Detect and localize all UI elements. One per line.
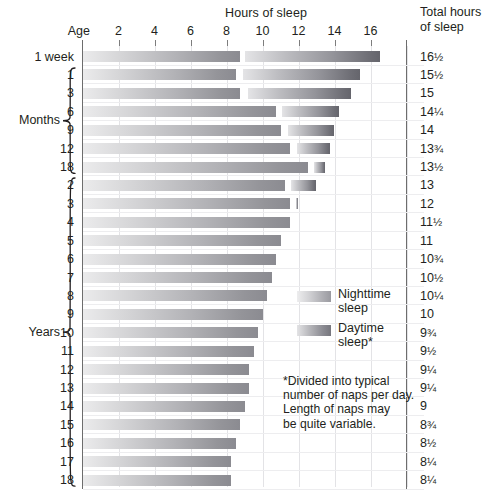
bar-nighttime (83, 106, 277, 117)
legend-label-daytime: Daytime sleep* (338, 321, 384, 349)
legend-label-nighttime-line1: Nighttime (338, 287, 391, 301)
row-total-whole: 13 (420, 142, 434, 156)
x-tick-label-6: 6 (178, 24, 204, 38)
row-total-whole: 10 (420, 307, 434, 321)
row-total-fraction: ¼ (427, 456, 436, 468)
footnote-line3: Length of naps may (283, 402, 433, 416)
row-total-whole: 9 (420, 326, 427, 340)
sleep-requirements-chart: Hours of sleep Age Total hours of sleep … (0, 0, 487, 499)
bar-daytime (297, 143, 330, 154)
bar-nighttime (83, 69, 236, 80)
row-total-fraction: ½ (434, 161, 443, 173)
row-total-whole: 8 (420, 436, 427, 450)
x-tick-label-10: 10 (250, 24, 276, 38)
years-group-brace (62, 177, 78, 487)
bar-nighttime (83, 180, 286, 191)
row-total-fraction: ½ (427, 437, 436, 449)
row-total-hours: 15 (420, 84, 482, 102)
row-total-hours: 12 (420, 195, 482, 213)
bar-daytime (291, 180, 316, 191)
x-tick-label-16: 16 (358, 24, 384, 38)
months-group-label: Months (0, 113, 60, 127)
legend-swatch-daytime (297, 325, 331, 336)
chart-title: Hours of sleep (186, 6, 346, 20)
months-group-brace (62, 67, 78, 175)
legend-swatch-nighttime (297, 291, 331, 302)
legend-label-daytime-line1: Daytime (338, 321, 384, 335)
row-total-fraction: ½ (427, 345, 436, 357)
row-total-hours: 10¼ (420, 287, 482, 305)
bar-nighttime (83, 125, 281, 136)
row-total-fraction: ¼ (434, 290, 443, 302)
bar-nighttime (83, 272, 272, 283)
row-separator (83, 489, 424, 490)
footnote-line2: number of naps per day. (283, 388, 433, 402)
row-total-whole: 10 (420, 252, 434, 266)
bar-nighttime (83, 254, 277, 265)
row-total-whole: 13 (420, 178, 434, 192)
row-total-hours: 16½ (420, 48, 482, 66)
x-tick-label-12: 12 (286, 24, 312, 38)
row-total-hours: 13½ (420, 158, 482, 176)
row-total-fraction: ½ (434, 69, 443, 81)
legend-label-nighttime-line2: sleep (338, 301, 391, 315)
bar-nighttime (83, 475, 232, 486)
row-age-label: 1 week (0, 48, 74, 66)
row-total-fraction: ½ (434, 51, 443, 63)
bar-daytime (243, 69, 360, 80)
footnote: *Divided into typical number of naps per… (283, 374, 433, 431)
bar-nighttime (83, 438, 236, 449)
bar-nighttime (83, 88, 241, 99)
years-group-label: Years (0, 325, 60, 339)
legend-label-nighttime: Nighttime sleep (338, 287, 391, 315)
row-total-hours: 15½ (420, 66, 482, 84)
row-total-hours: 10 (420, 305, 482, 323)
row-total-whole: 15 (420, 68, 434, 82)
bar-nighttime (83, 364, 250, 375)
total-hours-header: Total hours of sleep (420, 5, 486, 35)
footnote-line1: *Divided into typical (283, 374, 433, 388)
row-total-whole: 14 (420, 105, 434, 119)
row-total-whole: 11 (420, 215, 433, 229)
row-total-fraction: ¼ (427, 474, 436, 486)
row-total-whole: 12 (420, 197, 434, 211)
bar-nighttime (83, 327, 259, 338)
bar-nighttime (83, 198, 290, 209)
row-total-hours: 9¾ (420, 324, 482, 342)
bar-daytime (248, 88, 351, 99)
row-total-fraction: ¾ (427, 327, 436, 339)
row-total-hours: 14 (420, 121, 482, 139)
row-total-whole: 10 (420, 271, 434, 285)
bar-nighttime (83, 401, 245, 412)
x-tick-label-4: 4 (142, 24, 168, 38)
row-total-whole: 9 (420, 344, 427, 358)
bar-nighttime (83, 456, 232, 467)
row-total-whole: 8 (420, 455, 427, 469)
bar-nighttime (83, 162, 308, 173)
bar-nighttime (83, 383, 250, 394)
x-tick-label-8: 8 (214, 24, 240, 38)
x-tick-label-14: 14 (322, 24, 348, 38)
bar-nighttime (83, 235, 281, 246)
bar-nighttime (83, 143, 290, 154)
row-total-hours: 8¼ (420, 471, 482, 489)
row-total-whole: 15 (420, 86, 434, 100)
legend-label-daytime-line2: sleep* (338, 335, 384, 349)
row-total-hours: 10½ (420, 269, 482, 287)
row-total-hours: 13¾ (420, 140, 482, 158)
chart-row: 1 week16½ (0, 48, 487, 66)
row-total-fraction: ½ (433, 216, 442, 228)
row-total-fraction: ¼ (434, 106, 443, 118)
bar-nighttime (83, 309, 263, 320)
bar-daytime (245, 51, 380, 62)
row-total-whole: 10 (420, 289, 434, 303)
bar-nighttime (83, 217, 290, 228)
row-total-hours: 11 (420, 232, 482, 250)
bar-daytime (314, 162, 326, 173)
bar-daytime (288, 125, 335, 136)
bar-nighttime (83, 290, 268, 301)
bar-daytime (296, 198, 299, 209)
row-total-hours: 14¼ (420, 103, 482, 121)
row-total-hours: 13 (420, 176, 482, 194)
row-total-fraction: ½ (434, 272, 443, 284)
